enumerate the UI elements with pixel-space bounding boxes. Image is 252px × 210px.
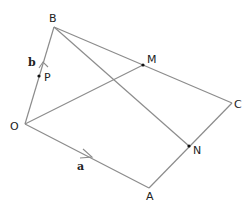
label-A: A: [146, 190, 154, 203]
label-M: M: [147, 53, 157, 66]
label-C: C: [234, 98, 242, 111]
segment-BN: [54, 27, 189, 146]
segment-OA: [25, 124, 149, 188]
label-vector-b: b: [28, 56, 36, 69]
label-vector-a: a: [77, 160, 84, 173]
point-M-dot: [141, 63, 144, 66]
vector-diagram: B O A C M N P a b: [0, 0, 252, 210]
label-N: N: [193, 144, 201, 157]
label-P: P: [44, 71, 51, 84]
point-N-dot: [187, 144, 190, 147]
label-O: O: [10, 120, 19, 133]
point-P-dot: [37, 74, 40, 77]
arrow-b-icon: [39, 62, 48, 68]
segment-OM: [25, 65, 143, 124]
label-B: B: [49, 12, 57, 25]
